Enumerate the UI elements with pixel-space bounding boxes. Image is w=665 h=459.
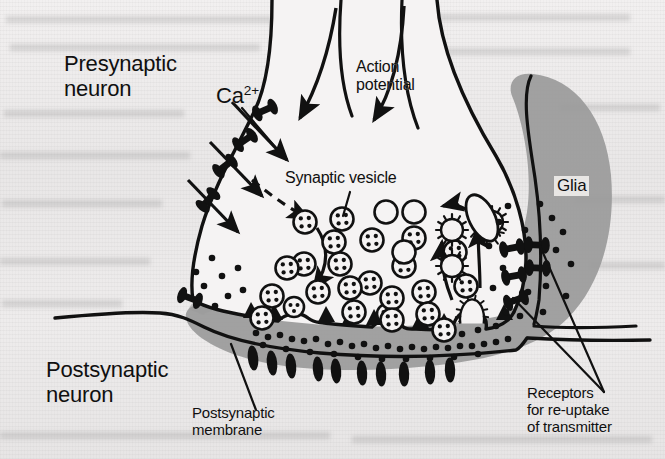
label-postsynaptic-neuron: Postsynaptic neuron xyxy=(46,358,168,407)
label-glia: Glia xyxy=(554,176,589,196)
label-presynaptic-neuron: Presynaptic neuron xyxy=(64,52,177,101)
label-action-potential: Action potential xyxy=(356,58,415,94)
figure-canvas: Presynaptic neuron Ca2+ Action potential… xyxy=(0,0,665,459)
label-synaptic-vesicle: Synaptic vesicle xyxy=(285,169,397,187)
label-postsynaptic-membrane: Postsynaptic membrane xyxy=(192,405,275,439)
label-calcium-ion-charge: 2+ xyxy=(244,83,260,98)
label-calcium-ion: Ca2+ xyxy=(216,83,259,109)
label-receptors-reuptake: Receptors for re-uptake of transmitter xyxy=(527,385,612,435)
label-calcium-ion-text: Ca xyxy=(216,83,244,108)
